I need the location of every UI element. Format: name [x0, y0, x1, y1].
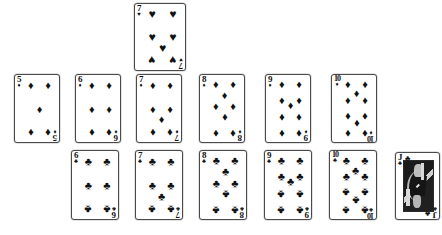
card-6-diamonds[interactable]: 6♦♦♦♦♦♦♦6♦ [75, 74, 121, 143]
card-index-bottom-right: 5♦ [53, 129, 57, 142]
card-pip-field: ♦♦♦♦♦♦♦♦ [209, 78, 240, 139]
card-7-diamonds[interactable]: 7♦♦♦♦♦♦♦♦7♦ [136, 74, 182, 143]
card-j-clubs[interactable]: J♣♣♣J♣ [395, 152, 440, 220]
card-suit-icon: ♣ [74, 158, 78, 164]
card-pip: ♦ [222, 90, 228, 101]
card-index-bottom-right: 10♣ [368, 207, 374, 219]
card-pip: ♦ [362, 110, 368, 121]
card-pip: ♦ [45, 80, 51, 91]
card-suit-icon: ♦ [17, 82, 20, 88]
court-figure-art [403, 160, 434, 212]
card-pip: ♣ [343, 171, 350, 182]
card-pip: ♣ [296, 155, 303, 166]
card-index-top-left: 7♥ [137, 4, 141, 17]
card-9-diamonds[interactable]: 9♦♦♦♦♦♦♦♦♦♦9♦ [265, 74, 311, 143]
card-pip: ♣ [85, 156, 92, 167]
card-index-bottom-right: 6♣ [112, 206, 116, 219]
card-8-clubs[interactable]: 8♣♣♣♣♣♣♣♣♣8♣ [199, 150, 247, 220]
card-pip: ♦ [213, 79, 219, 90]
card-suit-icon: ♦ [53, 129, 56, 135]
card-5-diamonds[interactable]: 5♦♦♦♦♦♦5♦ [14, 74, 60, 143]
card-suit-icon: ♣ [176, 206, 180, 212]
card-suit-icon: ♣ [369, 207, 373, 213]
card-pip: ♦ [106, 126, 112, 137]
card-index-bottom-right: 7♦ [175, 129, 179, 142]
card-pip: ♦ [362, 94, 368, 105]
card-suit-icon: ♦ [175, 129, 178, 135]
card-suit-icon: ♦ [78, 82, 81, 88]
card-pip-field: ♦♦♦♦♦♦♦♦♦ [275, 78, 306, 139]
card-index-top-left: 8♦ [202, 75, 206, 88]
card-pip: ♣ [85, 180, 92, 191]
card-10-diamonds[interactable]: 10♦♦♦♦♦♦♦♦♦♦♦10♦ [331, 74, 377, 143]
card-pip: ♣ [103, 180, 110, 191]
card-index-top-left: 8♣ [202, 151, 206, 164]
card-suit-icon: ♦ [268, 82, 271, 88]
card-pip: ♦ [28, 126, 34, 137]
card-pip: ♦ [150, 80, 156, 91]
card-pip-field: ♣♣♣♣♣♣ [81, 154, 114, 216]
card-pip: ♦ [345, 127, 351, 138]
card-10-clubs[interactable]: 10♣♣♣♣♣♣♣♣♣♣♣10♣ [329, 150, 377, 220]
card-pip: ♦ [354, 118, 360, 129]
card-pip-field: ♦♦♦♦♦♦ [85, 78, 116, 139]
card-pip: ♣ [85, 203, 92, 214]
card-7-hearts[interactable]: 7♥♥♥♥♥♥♥♥7♥ [134, 3, 186, 71]
card-pip: ♣ [361, 187, 368, 198]
card-pip: ♣ [158, 191, 165, 202]
card-pip: ♥ [149, 8, 156, 20]
card-pip: ♦ [230, 79, 236, 90]
card-7-clubs[interactable]: 7♣♣♣♣♣♣♣♣7♣ [135, 150, 183, 220]
card-pip: ♣ [103, 203, 110, 214]
card-index-top-left: 6♦ [78, 75, 82, 88]
card-pip: ♦ [106, 103, 112, 114]
card-suit-icon: ♣ [305, 206, 309, 212]
card-pip-field: ♦♦♦♦♦♦♦ [146, 78, 177, 139]
card-pip: ♦ [288, 99, 294, 110]
card-pip: ♦ [159, 114, 165, 125]
card-pip: ♣ [296, 171, 303, 182]
card-9-clubs[interactable]: 9♣♣♣♣♣♣♣♣♣♣9♣ [264, 150, 312, 220]
card-table-surface: 7♥♥♥♥♥♥♥♥7♥5♦♦♦♦♦♦5♦6♦♦♦♦♦♦♦6♦7♦♦♦♦♦♦♦♦7… [0, 0, 442, 235]
card-suit-icon: ♣ [333, 157, 337, 163]
card-pip: ♣ [361, 155, 368, 166]
card-pip: ♦ [279, 79, 285, 90]
card-pip: ♥ [169, 31, 176, 43]
card-pip: ♥ [159, 42, 166, 54]
card-pip: ♣ [213, 177, 220, 188]
card-index-top-left: 10♣ [332, 151, 338, 163]
card-pip: ♣ [222, 188, 229, 199]
card-index-bottom-right: 10♦ [368, 130, 374, 142]
card-suit-icon: ♦ [139, 82, 142, 88]
card-pip: ♥ [149, 31, 156, 43]
card-index-top-left: J♣ [398, 153, 402, 166]
card-pip: ♦ [354, 88, 360, 99]
card-suit-icon: ♦ [304, 129, 307, 135]
card-pip: ♦ [167, 103, 173, 114]
card-suit-icon: ♦ [238, 129, 241, 135]
card-index-top-left: 9♣ [267, 151, 271, 164]
card-suit-icon: ♥ [137, 11, 141, 17]
card-pip-field: ♣♣♣♣♣♣♣ [145, 154, 178, 216]
card-index-bottom-right: 8♣ [240, 206, 244, 219]
card-index-bottom-right: 6♦ [114, 129, 118, 142]
card-pip: ♦ [89, 103, 95, 114]
card-pip: ♦ [106, 80, 112, 91]
card-pip: ♣ [343, 187, 350, 198]
card-pip: ♣ [213, 155, 220, 166]
card-pip: ♣ [149, 203, 156, 214]
card-pip: ♦ [345, 79, 351, 90]
card-index-bottom-right: 7♥ [179, 57, 183, 70]
card-pip-field: ♣♣♣♣♣♣♣♣ [209, 154, 242, 216]
card-6-clubs[interactable]: 6♣♣♣♣♣♣♣6♣ [71, 150, 119, 220]
card-pip: ♦ [167, 80, 173, 91]
card-pip: ♣ [167, 180, 174, 191]
card-pip: ♣ [167, 156, 174, 167]
card-pip-field: ♥♥♥♥♥♥♥ [144, 7, 181, 67]
card-pip: ♦ [279, 94, 285, 105]
face-suit-bottom-right: ♣ [425, 209, 430, 217]
card-8-diamonds[interactable]: 8♦♦♦♦♦♦♦♦♦8♦ [199, 74, 245, 143]
card-pip: ♣ [278, 171, 285, 182]
card-pip: ♣ [343, 155, 350, 166]
card-index-bottom-right: 7♣ [176, 206, 180, 219]
